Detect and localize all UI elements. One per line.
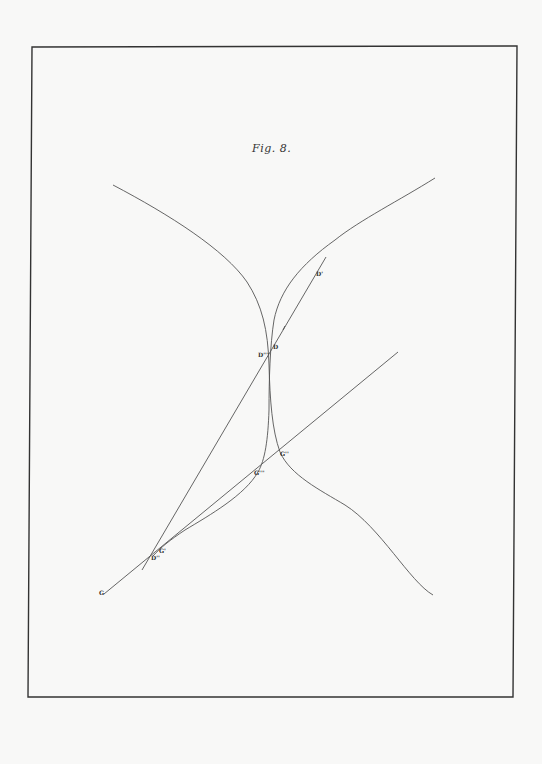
curve-branch-one	[113, 185, 433, 595]
diagram-canvas	[0, 0, 542, 764]
line-g	[104, 352, 398, 594]
plate-page: Fig. 8. D' D D''' G'' G''' G' D'' G	[0, 0, 542, 764]
label-g-triple-prime: G'''	[254, 470, 265, 476]
figure-title: Fig. 8.	[252, 142, 291, 155]
label-d: D	[273, 344, 278, 350]
label-g-prime: G'	[159, 548, 166, 554]
label-d-triple-prime: D'''	[258, 352, 269, 358]
label-g-double-prime: G''	[280, 451, 289, 457]
label-d-double-prime: D''	[151, 555, 160, 561]
line-d-secant	[142, 257, 326, 570]
label-g: G	[99, 590, 104, 596]
label-d-prime: D'	[316, 271, 323, 277]
